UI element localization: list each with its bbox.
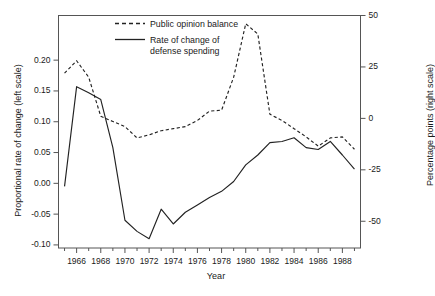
y-tick-left-0.05: 0.05 <box>9 147 51 157</box>
series-rate-of-change-of-defense-spending <box>65 87 355 239</box>
legend-item-defense-spending-line1: Rate of change of <box>150 35 219 46</box>
legend-swatches <box>115 24 145 40</box>
x-tick-label-1988: 1988 <box>322 256 362 266</box>
y-axis-right-title: Percentage points (right scale) <box>425 35 435 215</box>
y-tick-right-50: 50 <box>369 10 399 20</box>
y-tick-right--50: -50 <box>369 216 399 226</box>
y-tick-right-25: 25 <box>369 61 399 71</box>
y-tick-left-0.15: 0.15 <box>9 85 51 95</box>
y-tick-left-0.20: 0.20 <box>9 55 51 65</box>
y-tick-left--0.05: -0.05 <box>9 209 51 219</box>
y-tick-right-0: 0 <box>369 113 399 123</box>
legend-item-defense-spending-line2: defense spending <box>150 46 219 57</box>
x-axis-title: Year <box>0 271 432 281</box>
legend-item-public-opinion-balance: Public opinion balance <box>150 19 238 30</box>
y-tick-left-0.10: 0.10 <box>9 116 51 126</box>
y-tick-left--0.10: -0.10 <box>9 239 51 249</box>
y-tick-right--25: -25 <box>369 164 399 174</box>
y-tick-left-0.00: 0.00 <box>9 178 51 188</box>
